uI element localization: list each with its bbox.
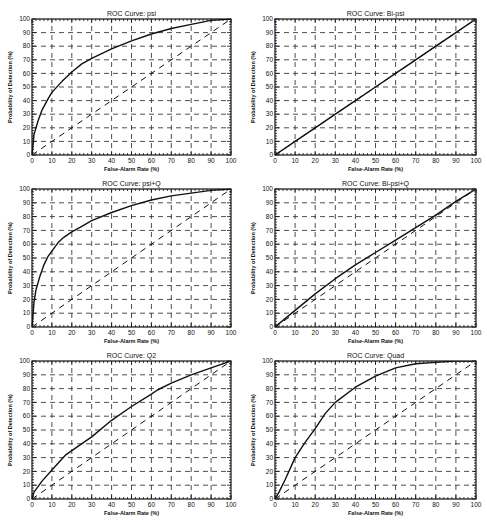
x-tick-label: 70 xyxy=(412,329,420,336)
roc-panel: 0102030405060708090100010203040506070809… xyxy=(7,10,237,172)
panel-title: ROC Curve: Bi-psi xyxy=(347,10,405,18)
y-tick-label: 40 xyxy=(23,440,31,447)
x-tick-label: 50 xyxy=(128,329,136,336)
y-tick-label: 0 xyxy=(26,323,30,330)
x-tick-label: 0 xyxy=(273,501,277,508)
x-tick-label: 80 xyxy=(432,157,440,164)
y-tick-label: 0 xyxy=(269,495,273,502)
x-tick-label: 70 xyxy=(168,157,176,164)
y-tick-label: 70 xyxy=(266,399,274,406)
y-tick-label: 50 xyxy=(266,254,274,261)
x-tick-label: 60 xyxy=(148,329,156,336)
y-tick-label: 80 xyxy=(23,42,31,49)
y-axis-label: Probability of Detection (%) xyxy=(250,394,256,466)
x-tick-label: 20 xyxy=(312,501,320,508)
y-tick-label: 50 xyxy=(266,426,274,433)
x-tick-label: 70 xyxy=(168,329,176,336)
x-tick-label: 20 xyxy=(312,329,320,336)
x-tick-label: 90 xyxy=(452,501,460,508)
x-tick-label: 30 xyxy=(332,329,340,336)
x-tick-label: 30 xyxy=(88,329,96,336)
y-tick-label: 50 xyxy=(266,83,274,90)
y-tick-label: 40 xyxy=(266,440,274,447)
x-tick-label: 20 xyxy=(68,501,76,508)
x-tick-label: 10 xyxy=(291,329,299,336)
x-axis-label: False-Alarm Rate (%) xyxy=(104,338,159,344)
y-tick-label: 50 xyxy=(23,83,31,90)
y-tick-label: 40 xyxy=(23,268,31,275)
y-tick-label: 10 xyxy=(23,481,31,488)
x-tick-label: 40 xyxy=(352,329,360,336)
x-tick-label: 0 xyxy=(30,157,34,164)
y-tick-label: 10 xyxy=(266,138,274,145)
y-tick-label: 90 xyxy=(23,199,31,206)
y-tick-label: 30 xyxy=(23,454,31,461)
y-tick-label: 0 xyxy=(269,151,273,158)
y-tick-label: 20 xyxy=(23,296,31,303)
y-tick-label: 10 xyxy=(23,138,31,145)
x-tick-label: 80 xyxy=(188,157,196,164)
x-tick-label: 40 xyxy=(352,157,360,164)
x-tick-label: 90 xyxy=(452,329,460,336)
y-tick-label: 40 xyxy=(266,97,274,104)
x-tick-label: 70 xyxy=(412,501,420,508)
x-tick-label: 60 xyxy=(148,157,156,164)
y-tick-label: 60 xyxy=(23,70,31,77)
y-tick-label: 0 xyxy=(269,323,273,330)
y-axis-label: Probability of Detection (%) xyxy=(7,222,13,294)
x-tick-label: 90 xyxy=(207,157,215,164)
x-tick-label: 100 xyxy=(226,329,237,336)
x-tick-label: 10 xyxy=(291,157,299,164)
roc-panel: 0102030405060708090100010203040506070809… xyxy=(7,180,237,344)
panel-title: ROC Curve: Q2 xyxy=(107,352,157,360)
y-tick-label: 70 xyxy=(23,399,31,406)
y-tick-label: 60 xyxy=(266,70,274,77)
x-tick-label: 30 xyxy=(88,501,96,508)
y-tick-label: 70 xyxy=(266,227,274,234)
x-tick-label: 30 xyxy=(88,157,96,164)
y-tick-label: 40 xyxy=(266,268,274,275)
y-tick-label: 100 xyxy=(262,15,273,22)
y-tick-label: 20 xyxy=(266,296,274,303)
x-tick-label: 100 xyxy=(226,501,237,508)
x-tick-label: 90 xyxy=(452,157,460,164)
y-tick-label: 80 xyxy=(23,385,31,392)
x-tick-label: 80 xyxy=(432,501,440,508)
roc-panel: 0102030405060708090100010203040506070809… xyxy=(250,352,482,516)
x-tick-label: 50 xyxy=(128,501,136,508)
y-tick-label: 0 xyxy=(26,151,30,158)
y-tick-label: 70 xyxy=(23,227,31,234)
x-tick-label: 50 xyxy=(372,157,380,164)
y-tick-label: 90 xyxy=(266,371,274,378)
panel-title: ROC Curve: psi xyxy=(107,10,156,18)
y-tick-label: 10 xyxy=(266,309,274,316)
x-tick-label: 90 xyxy=(207,501,215,508)
y-tick-label: 20 xyxy=(23,468,31,475)
y-tick-label: 100 xyxy=(262,185,273,192)
y-tick-label: 90 xyxy=(266,199,274,206)
y-tick-label: 60 xyxy=(23,412,31,419)
x-tick-label: 100 xyxy=(471,157,482,164)
x-tick-label: 100 xyxy=(226,157,237,164)
y-tick-label: 80 xyxy=(266,213,274,220)
y-tick-label: 30 xyxy=(266,454,274,461)
x-tick-label: 10 xyxy=(48,157,56,164)
y-axis-label: Probability of Detection (%) xyxy=(7,51,13,123)
x-tick-label: 90 xyxy=(207,329,215,336)
x-tick-label: 0 xyxy=(30,329,34,336)
x-tick-label: 20 xyxy=(68,157,76,164)
y-tick-label: 70 xyxy=(266,56,274,63)
x-tick-label: 40 xyxy=(352,501,360,508)
x-tick-label: 10 xyxy=(48,501,56,508)
x-axis-label: False-Alarm Rate (%) xyxy=(104,166,159,172)
y-tick-label: 100 xyxy=(19,185,30,192)
x-tick-label: 10 xyxy=(291,501,299,508)
x-axis-label: False-Alarm Rate (%) xyxy=(104,510,159,516)
x-tick-label: 70 xyxy=(412,157,420,164)
x-tick-label: 80 xyxy=(432,329,440,336)
panel-title: ROC Curve: Bi-psi+Q xyxy=(342,180,410,188)
x-tick-label: 30 xyxy=(332,501,340,508)
y-tick-label: 90 xyxy=(23,371,31,378)
x-tick-label: 80 xyxy=(188,329,196,336)
x-tick-label: 50 xyxy=(372,501,380,508)
